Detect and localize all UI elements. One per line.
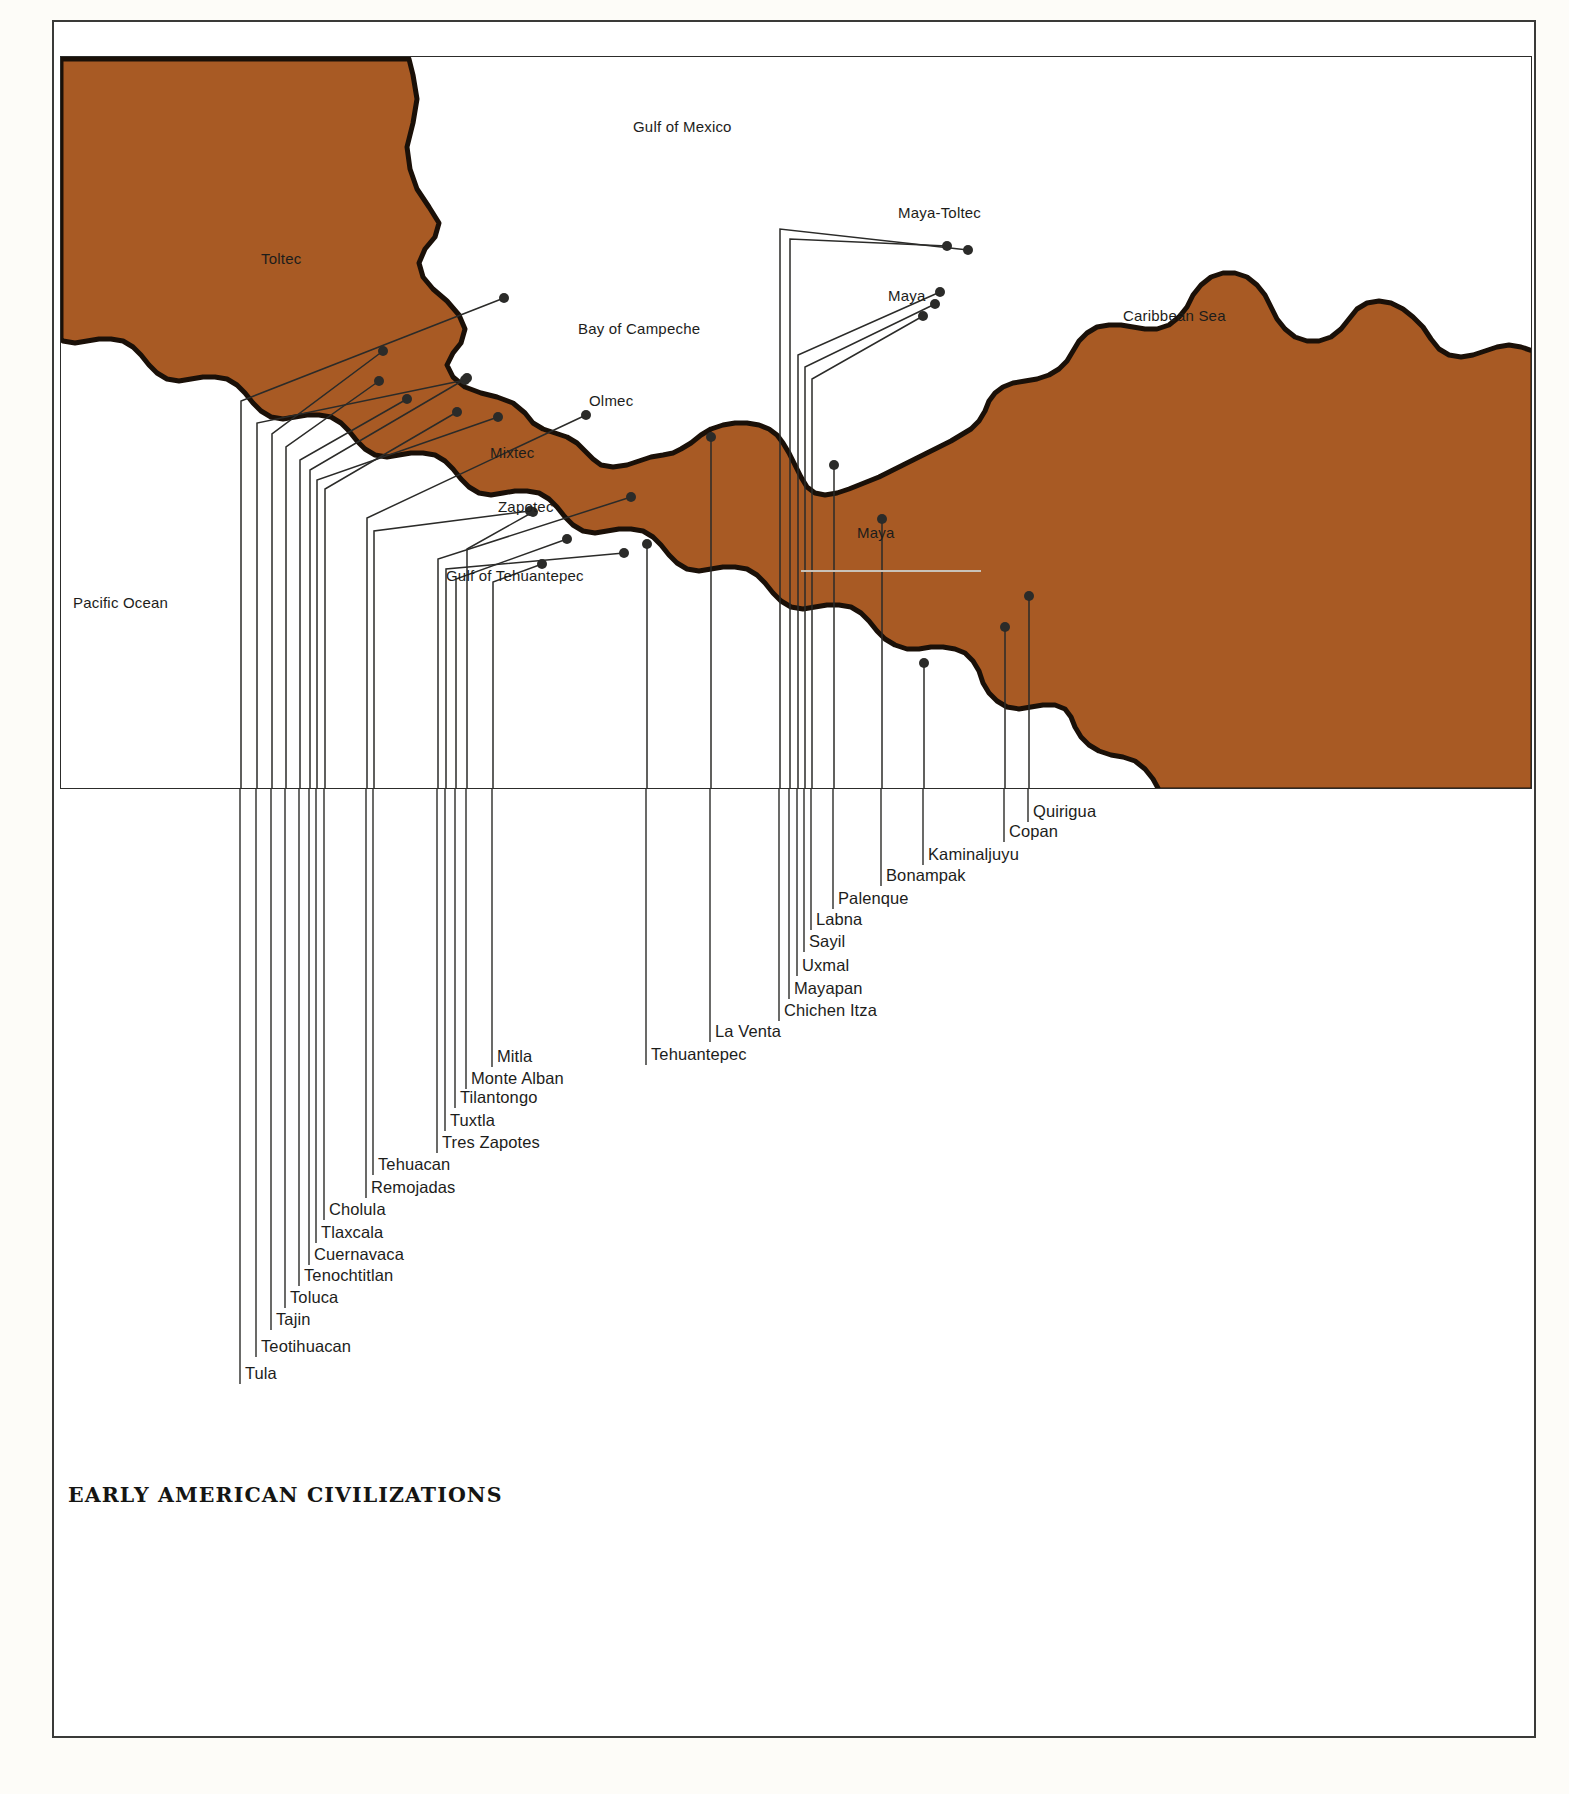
site-dot — [935, 287, 945, 297]
map-page: Gulf of Mexico Bay of Campeche Caribbean… — [0, 0, 1569, 1794]
site-dot — [706, 432, 716, 442]
water-label-bay-of-campeche: Bay of Campeche — [578, 320, 700, 337]
site-label-tlaxcala: Tlaxcala — [321, 1223, 383, 1242]
site-dot — [619, 548, 629, 558]
site-dot — [378, 346, 388, 356]
culture-label-olmec: Olmec — [589, 392, 633, 409]
site-dot — [581, 410, 591, 420]
site-dot — [1024, 591, 1034, 601]
leader-tehuacan — [374, 506, 535, 789]
site-dot — [1000, 622, 1010, 632]
leader-mayapan — [790, 239, 952, 789]
site-dot — [642, 539, 652, 549]
leader-tehuantepec — [642, 539, 652, 789]
leader-quirigua — [1024, 591, 1034, 789]
site-label-tehuantepec: Tehuantepec — [651, 1045, 747, 1064]
site-label-mayapan: Mayapan — [794, 979, 863, 998]
leader-remojadas — [367, 410, 591, 789]
leader-mitla — [493, 559, 547, 789]
site-label-chichen-itza: Chichen Itza — [784, 1001, 877, 1020]
site-dot — [918, 311, 928, 321]
site-dot — [829, 460, 839, 470]
site-dot — [462, 373, 472, 383]
site-label-tres-zapotes: Tres Zapotes — [442, 1133, 540, 1152]
water-label-pacific-ocean: Pacific Ocean — [73, 594, 168, 611]
site-label-tilantongo: Tilantongo — [460, 1088, 537, 1107]
site-label-copan: Copan — [1009, 822, 1058, 841]
page-title: EARLY AMERICAN CIVILIZATIONS — [68, 1483, 503, 1507]
site-dot — [626, 492, 636, 502]
leader-labna — [812, 311, 928, 789]
culture-label-maya-north: Maya — [888, 287, 925, 304]
site-label-uxmal: Uxmal — [802, 956, 849, 975]
site-label-tuxtla: Tuxtla — [450, 1111, 495, 1130]
site-label-palenque: Palenque — [838, 889, 909, 908]
site-label-cuernavaca: Cuernavaca — [314, 1245, 404, 1264]
culture-label-toltec: Toltec — [261, 250, 301, 267]
water-label-gulf-of-mexico: Gulf of Mexico — [633, 118, 732, 135]
site-label-labna: Labna — [816, 910, 862, 929]
leader-monte-alban — [467, 507, 538, 789]
leader-tlaxcala — [317, 412, 503, 789]
culture-label-zapotec: Zapotec — [498, 498, 554, 515]
site-label-toluca: Toluca — [290, 1288, 338, 1307]
site-dot — [877, 514, 887, 524]
site-dot — [402, 394, 412, 404]
leader-cholula — [325, 407, 462, 789]
site-dot — [919, 658, 929, 668]
site-label-cholula: Cholula — [329, 1200, 386, 1219]
site-label-monte-alban: Monte Alban — [471, 1069, 564, 1088]
site-label-remojadas: Remojadas — [371, 1178, 455, 1197]
site-dot — [562, 534, 572, 544]
site-dot — [374, 376, 384, 386]
leader-la-venta — [706, 432, 716, 789]
leader-tajin — [272, 346, 388, 789]
water-label-gulf-of-tehuantepec: Gulf of Tehuantepec — [446, 567, 584, 584]
site-dot — [499, 293, 509, 303]
site-label-mitla: Mitla — [497, 1047, 532, 1066]
site-dot — [452, 407, 462, 417]
leader-sayil — [805, 299, 940, 789]
map-frame — [60, 56, 1532, 789]
site-label-la-venta: La Venta — [715, 1022, 781, 1041]
site-dot — [963, 245, 973, 255]
site-label-tajin: Tajin — [276, 1310, 310, 1329]
culture-label-maya-toltec: Maya-Toltec — [898, 204, 981, 221]
leader-palenque — [829, 460, 839, 789]
culture-label-mixtec: Mixtec — [490, 444, 535, 461]
site-label-sayil: Sayil — [809, 932, 845, 951]
leader-kaminaljuyu — [919, 658, 929, 789]
site-label-tenochtitlan: Tenochtitlan — [304, 1266, 393, 1285]
site-dot — [493, 412, 503, 422]
leader-copan — [1000, 622, 1010, 789]
leader-bonampak — [877, 514, 887, 789]
site-label-quirigua: Quirigua — [1033, 802, 1096, 821]
in-map-leaders — [61, 57, 1532, 789]
site-dot — [930, 299, 940, 309]
leader-tula — [241, 293, 509, 789]
leader-tuxtla — [446, 548, 629, 789]
site-label-teotihuacan: Teotihuacan — [261, 1337, 351, 1356]
site-dot — [942, 241, 952, 251]
site-label-tehuacan: Tehuacan — [378, 1155, 450, 1174]
site-label-bonampak: Bonampak — [886, 866, 966, 885]
leader-chichen-itza — [780, 229, 973, 789]
site-label-kaminaljuyu: Kaminaljuyu — [928, 845, 1019, 864]
water-label-caribbean-sea: Caribbean Sea — [1123, 307, 1226, 324]
site-label-tula: Tula — [245, 1364, 277, 1383]
culture-label-maya-south: Maya — [857, 524, 894, 541]
